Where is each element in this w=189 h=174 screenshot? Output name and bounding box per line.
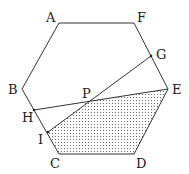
label-F: F	[137, 10, 146, 25]
point-I-dot	[47, 131, 50, 134]
label-D: D	[136, 156, 146, 171]
label-C: C	[50, 156, 60, 171]
label-B: B	[8, 82, 18, 97]
label-A: A	[45, 10, 56, 25]
label-I: I	[38, 132, 43, 147]
label-H: H	[22, 110, 33, 125]
label-E: E	[172, 82, 182, 97]
label-G: G	[156, 47, 166, 62]
label-P: P	[82, 86, 91, 101]
point-G-dot	[150, 55, 153, 58]
hexagon-diagram: A F B E C D G H I P	[0, 0, 189, 174]
